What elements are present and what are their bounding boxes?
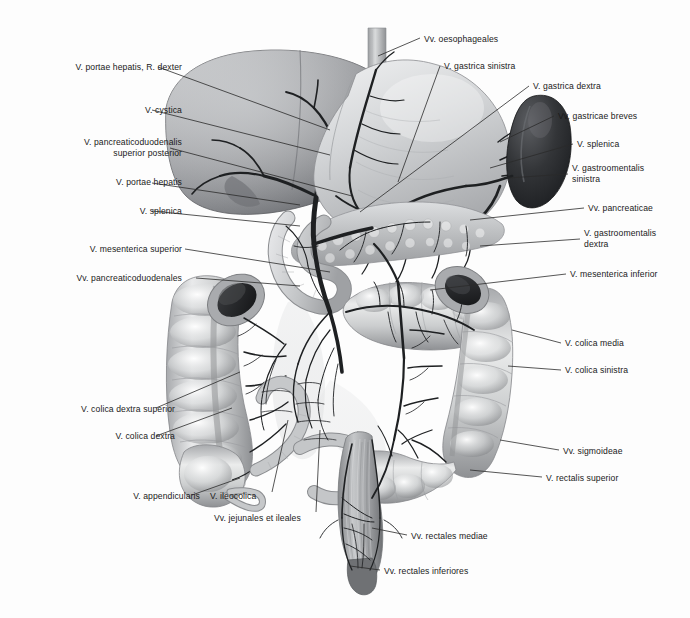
label-v-pancreaticoduodenalis-superior-posterior: V. pancreaticoduodenalis superior poster… — [18, 137, 182, 158]
label-v-colica-dextra-superior: V. colica dextra superior — [32, 404, 175, 415]
label-vv-gastricae-breves: Vv. gastricae breves — [558, 111, 637, 122]
label-v-colica-dextra: V. colica dextra — [75, 431, 175, 442]
label-vv-jejunales-et-ileales: Vv. jejunales et ileales — [214, 513, 301, 524]
label-vv-pancreaticae: Vv. pancreaticae — [588, 203, 653, 214]
leader-v-colica-media — [512, 330, 561, 343]
label-v-ileocolica: V. ileocolica — [210, 491, 256, 502]
label-vv-oesophageales: Vv. oesophageales — [424, 34, 498, 45]
label-vv-rectales-mediae: Vv. rectales mediae — [411, 531, 488, 542]
label-v-portae-hepatis: V. portae hepatis — [55, 177, 182, 188]
label-v-gastrica-sinistra: V. gastrica sinistra — [444, 61, 515, 72]
label-v-splenica-left: V. splenica — [83, 206, 182, 217]
label-v-gastrica-dextra: V. gastrica dextra — [533, 81, 601, 92]
label-v-splenica-right: V. splenica — [577, 139, 619, 150]
label-vv-sigmoideae: Vv. sigmoideae — [563, 446, 623, 457]
label-v-mesenterica-superior: V. mesenterica superior — [43, 244, 182, 255]
label-vv-rectales-inferiores: Vv. rectales inferiores — [384, 566, 468, 577]
label-v-appendicularis: V. appendicularis — [104, 491, 200, 502]
label-v-colica-media: V. colica media — [565, 338, 624, 349]
label-v-colica-sinistra: V. colica sinistra — [565, 365, 628, 376]
label-vv-pancreaticoduodenales: Vv. pancreaticoduodenales — [32, 273, 182, 284]
anatomical-figure: V. portae hepatis, R. dexterV. cysticaV.… — [0, 0, 690, 618]
label-v-cystica: V. cystica — [83, 105, 182, 116]
label-v-gastroomentalis-sinistra: V. gastroomentalis sinistra — [572, 163, 644, 184]
pancreas — [291, 202, 504, 266]
label-v-mesenterica-inferior: V. mesenterica inferior — [570, 269, 657, 280]
leader-v-colica-sinistra — [508, 366, 561, 370]
label-v-gastroomentalis-dextra: V. gastroomentalis dextra — [584, 228, 656, 249]
label-v-portae-hepatis-r-dexter: V. portae hepatis, R. dexter — [30, 62, 182, 73]
leader-vv-sigmoideae — [500, 440, 559, 450]
illustration-canvas — [0, 0, 690, 618]
label-v-rectalis-superior: V. rectalis superior — [546, 473, 618, 484]
